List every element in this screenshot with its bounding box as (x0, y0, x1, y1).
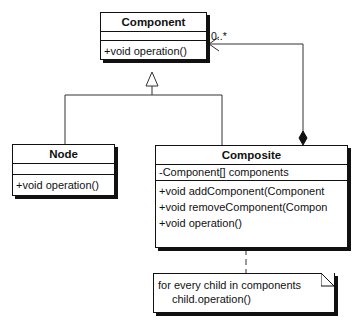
class-operations: +void operation() (13, 175, 114, 195)
operation: +void operation() (104, 43, 203, 59)
note[interactable]: for every child in components child.oper… (153, 273, 335, 313)
multiplicity-label: 0..* (211, 30, 227, 42)
note-line-2: child.operation() (158, 292, 330, 306)
operation: +void operation() (159, 215, 344, 231)
composition-line (209, 44, 303, 132)
class-name: Node (13, 145, 114, 164)
operation: +void removeComponent(Compon (159, 199, 344, 215)
class-component[interactable]: Component +void operation() (100, 12, 207, 60)
class-composite[interactable]: Composite -Component[] components +void … (155, 145, 348, 248)
class-node[interactable]: Node +void operation() (12, 144, 115, 196)
composition-diamond-icon (299, 131, 307, 145)
class-name: Composite (156, 146, 347, 165)
class-attributes (13, 164, 114, 175)
note-dogear-icon (321, 273, 335, 287)
class-operations: +void addComponent(Component +void remov… (156, 181, 347, 233)
class-attributes: -Component[] components (156, 165, 347, 181)
attribute: -Component[] components (159, 165, 344, 180)
class-operations: +void operation() (101, 41, 206, 61)
operation: +void addComponent(Component (159, 183, 344, 199)
inheritance-triangle-icon (146, 72, 158, 86)
class-name: Component (101, 13, 206, 32)
class-attributes (101, 32, 206, 41)
operation: +void operation() (16, 177, 111, 193)
note-line-1: for every child in components (158, 278, 330, 292)
